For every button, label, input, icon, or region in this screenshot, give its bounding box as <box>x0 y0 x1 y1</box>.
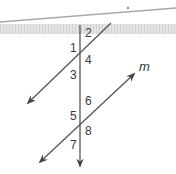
upper-parallel-line <box>28 23 111 103</box>
angle-label-7: 7 <box>70 138 77 152</box>
diagram-canvas: m 2 1 4 3 6 5 8 7 <box>0 0 176 174</box>
lower-parallel-line-m <box>40 74 134 162</box>
angle-label-8: 8 <box>85 124 92 138</box>
angle-label-4: 4 <box>85 53 92 67</box>
angle-label-3: 3 <box>70 68 77 82</box>
angle-label-2: 2 <box>85 26 92 40</box>
angle-label-1: 1 <box>70 41 77 55</box>
angle-label-5: 5 <box>70 109 77 123</box>
top-edge-dot <box>127 7 129 9</box>
top-edge-line <box>0 8 176 22</box>
angle-label-6: 6 <box>85 94 92 108</box>
transversal-diagram: m 2 1 4 3 6 5 8 7 <box>0 0 176 174</box>
line-label-m: m <box>139 59 150 74</box>
